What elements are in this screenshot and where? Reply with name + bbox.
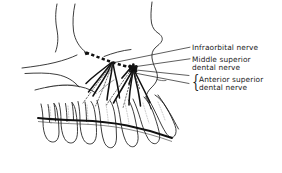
maxillary-teeth bbox=[41, 95, 179, 148]
anatomical-diagram-figure: Infraorbital nerve Middle superior denta… bbox=[0, 0, 282, 173]
label-infraorbital-nerve: Infraorbital nerve bbox=[192, 44, 258, 53]
middle-superior-dental-branches bbox=[86, 63, 120, 101]
label-brace-glyph: { bbox=[192, 72, 199, 91]
skull-profile-outline bbox=[22, 4, 131, 93]
label-anterior-superior-dental-nerve-line2: dental nerve bbox=[199, 84, 247, 93]
